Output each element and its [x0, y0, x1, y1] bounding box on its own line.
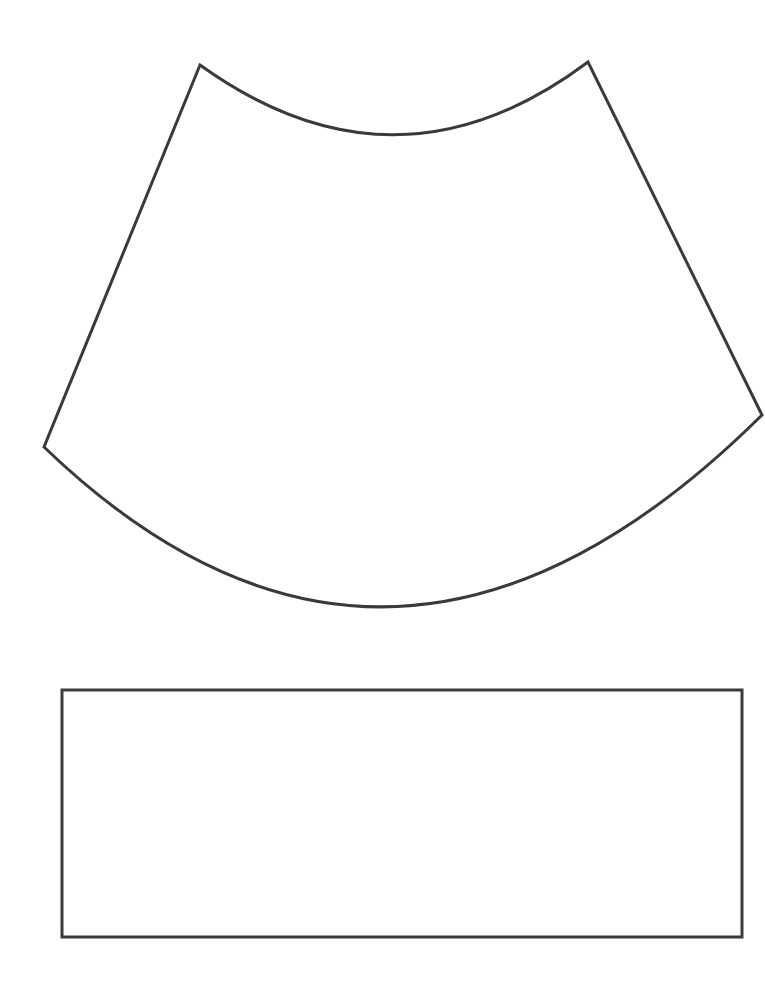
shapes-svg	[0, 0, 765, 982]
rectangle-shape	[62, 690, 742, 937]
drawing-canvas	[0, 0, 765, 982]
